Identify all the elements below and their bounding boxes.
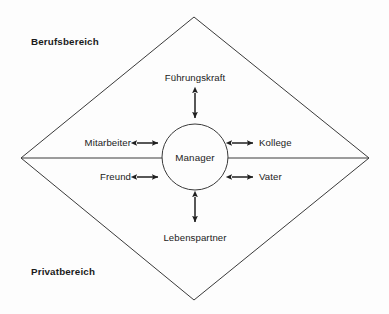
- center-label-manager: Manager: [175, 153, 214, 163]
- role-label-fuehrungskraft: Führungskraft: [165, 73, 226, 83]
- role-label-freund: Freund: [100, 172, 131, 182]
- role-label-mitarbeiter: Mitarbeiter: [85, 138, 131, 148]
- zone-label-berufsbereich: Berufsbereich: [31, 37, 99, 47]
- role-label-kollege: Kollege: [259, 138, 292, 148]
- role-label-lebenspartner: Lebenspartner: [163, 233, 226, 243]
- diagram-canvas: Berufsbereich Privatbereich Führungskraf…: [0, 0, 389, 314]
- role-label-vater: Vater: [259, 172, 282, 182]
- zone-label-privatbereich: Privatbereich: [31, 267, 95, 277]
